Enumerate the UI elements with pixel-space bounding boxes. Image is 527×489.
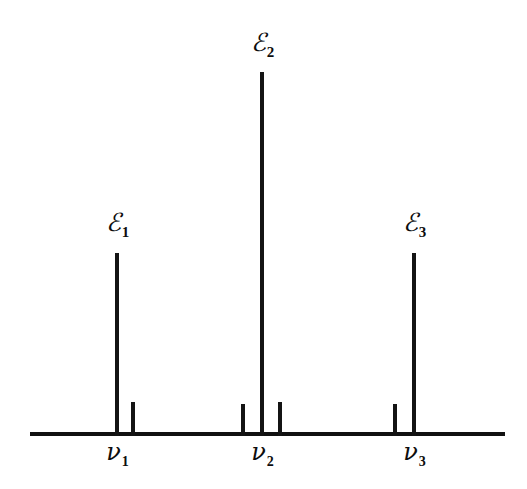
frequency-subscript: 3 [419,454,426,469]
frequency-subscript: 1 [122,454,129,469]
frequency-label-nu3: ν3 [403,440,425,464]
spike-e2-main [260,72,264,436]
spike-nu1-sat [131,402,135,436]
energy-symbol: ℰ [251,28,266,57]
energy-label-e1: ℰ1 [106,210,129,235]
frequency-axis-line [30,432,505,436]
spike-e3-main [412,253,416,436]
frequency-symbol: ν [106,438,121,466]
frequency-subscript: 2 [267,454,274,469]
frequency-label-nu1: ν1 [106,440,128,464]
frequency-symbol: ν [403,438,418,466]
energy-subscript: 3 [419,224,427,240]
energy-symbol: ℰ [403,208,418,237]
frequency-symbol: ν [251,438,266,466]
energy-symbol: ℰ [106,208,121,237]
spike-nu3-sat [393,404,397,436]
energy-label-e3: ℰ3 [403,210,426,235]
spike-e1-main [115,253,119,436]
spike-nu2-sat-left [241,404,245,436]
energy-subscript: 2 [267,44,275,60]
spectrum-figure: ℰ1 ℰ2 ℰ3 ν1 ν2 ν3 [0,0,527,489]
energy-subscript: 1 [122,224,130,240]
energy-label-e2: ℰ2 [251,30,274,55]
spike-nu2-sat-right [278,402,282,436]
frequency-label-nu2: ν2 [251,440,273,464]
